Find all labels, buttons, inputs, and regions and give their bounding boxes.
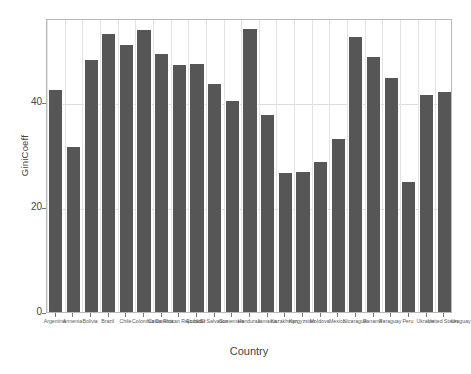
bar [278, 173, 293, 312]
bar [172, 65, 187, 312]
x-tick-label: Armenia [63, 317, 82, 325]
x-tick-label: Bolivia [82, 317, 97, 325]
bar [225, 101, 240, 312]
bar [84, 60, 99, 312]
x-axis-title: Country [46, 345, 452, 357]
x-tick-label: Chile [120, 317, 132, 325]
bar [401, 182, 416, 312]
y-tick-label: 0 [12, 306, 42, 317]
bar [242, 29, 257, 312]
bar [101, 34, 116, 312]
bar [154, 54, 169, 312]
x-tick-label: Paraguay [379, 317, 401, 325]
x-tick-label: Peru [402, 317, 413, 325]
bar [136, 30, 151, 312]
bar [295, 172, 310, 312]
y-tick-label: 20 [12, 201, 42, 212]
x-tick-label: Uruguay [451, 317, 471, 325]
plot-area [46, 19, 452, 313]
bar [207, 84, 222, 312]
bar [331, 139, 346, 312]
y-tick-label: 40 [12, 96, 42, 107]
bar [66, 147, 81, 312]
bar [119, 45, 134, 312]
x-tick-label: Brazil [101, 317, 114, 325]
bar [48, 90, 63, 312]
y-axis-title: GiniCoeff [19, 116, 30, 196]
bar [189, 64, 204, 312]
bar [260, 115, 275, 312]
bar [348, 37, 363, 312]
bar [437, 92, 452, 312]
bar [384, 78, 399, 312]
bar [313, 162, 328, 312]
bar [366, 57, 381, 312]
x-axis-tick-labels: ArgentinaArmeniaBoliviaBrazilChileColomb… [46, 317, 452, 329]
bar [419, 95, 434, 312]
y-tick-mark [42, 313, 46, 314]
x-tick-label: Moldova [310, 317, 330, 325]
bar-series [47, 20, 451, 312]
